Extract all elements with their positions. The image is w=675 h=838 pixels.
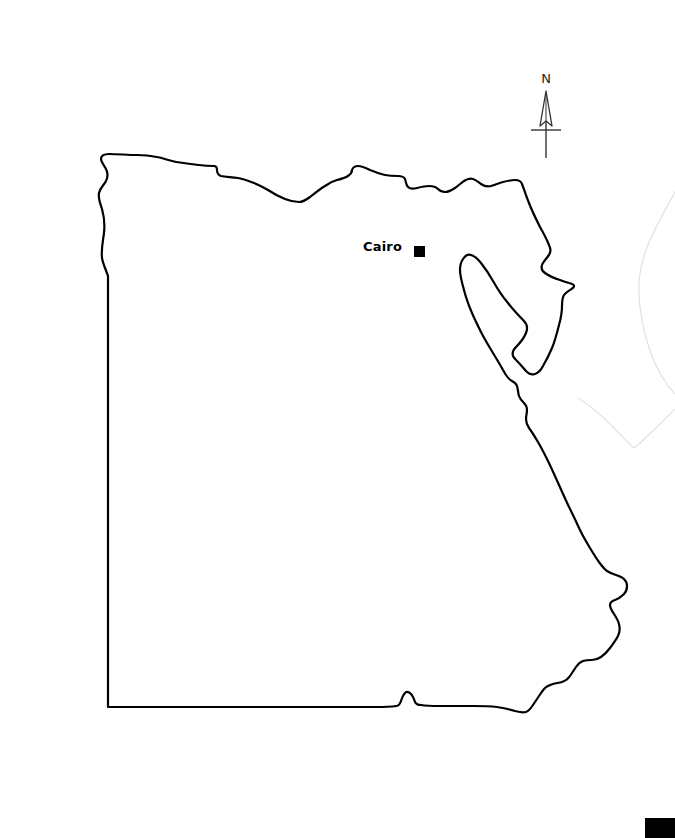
compass-north-label: N: [524, 72, 568, 86]
north-arrow-icon: [524, 88, 568, 158]
neighbor-country-outline: [578, 192, 675, 448]
corner-mark: [645, 818, 675, 838]
compass-rose: N: [524, 72, 568, 158]
map-canvas: [0, 0, 675, 838]
egypt-outline-map: [0, 0, 675, 838]
city-marker-cairo: [414, 246, 425, 257]
city-label-cairo: Cairo: [363, 239, 402, 255]
egypt-border-path: [99, 154, 627, 712]
